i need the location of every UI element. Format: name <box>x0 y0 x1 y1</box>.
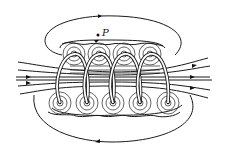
point-p-marker <box>97 34 100 37</box>
field-lines-figure <box>0 0 225 160</box>
point-p-label: P <box>102 27 109 38</box>
